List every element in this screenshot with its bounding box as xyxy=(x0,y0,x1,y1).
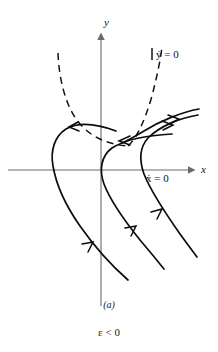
trajectory-outer-left xyxy=(52,125,128,280)
trajectory-upper-right-outer xyxy=(122,109,199,143)
ydot-nullcline-label: ẏ = 0 xyxy=(156,48,179,60)
panel-letter-caption: (a) xyxy=(0,299,218,310)
parameter-condition-caption: ε < 0 xyxy=(0,326,218,338)
flow-arrow-upright-inner xyxy=(151,209,162,219)
flow-arrow-upright-middle xyxy=(125,226,136,236)
ydot-nullcline-group xyxy=(58,46,162,146)
trajectory-middle xyxy=(101,134,172,269)
y-axis-label: y xyxy=(104,16,109,28)
trajectory-group xyxy=(52,109,199,280)
xdot-nullcline-label: ẋ = 0 xyxy=(146,172,169,184)
ydot-nullcline-left-branch xyxy=(58,53,128,146)
flow-arrow-upright-outer xyxy=(82,242,93,252)
x-axis-label: x xyxy=(201,163,206,175)
phase-portrait-figure: y x ẏ = 0 ẋ = 0 (a) ε < 0 xyxy=(0,0,218,352)
trajectory-inner-right xyxy=(141,115,198,257)
